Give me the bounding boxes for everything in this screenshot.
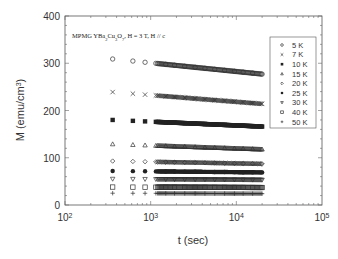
x-tick-label: 103 xyxy=(143,212,158,224)
legend: 5 K7 K10 K15 K20 K25 K30 K40 K50 K xyxy=(270,37,316,128)
series-40k xyxy=(110,185,264,190)
legend-label: 10 K xyxy=(292,60,307,69)
series-20k xyxy=(110,159,264,166)
legend-label: 30 K xyxy=(292,98,307,107)
y-tick-label: 400 xyxy=(43,11,60,22)
legend-label: 25 K xyxy=(292,89,307,98)
legend-label: 7 K xyxy=(292,50,303,59)
x-tick-label: 105 xyxy=(314,212,329,224)
legend-label: 20 K xyxy=(292,79,307,88)
y-tick-label: 0 xyxy=(54,200,60,211)
legend-label: 40 K xyxy=(292,108,307,117)
series-25k xyxy=(110,169,264,175)
data-points xyxy=(110,57,264,196)
y-tick-label: 200 xyxy=(43,106,60,117)
series-50k xyxy=(110,191,264,196)
series-15k xyxy=(110,142,264,151)
y-tick-label: 300 xyxy=(43,58,60,69)
x-axis-title: t (sec) xyxy=(178,234,209,246)
y-tick-label: 100 xyxy=(43,153,60,164)
series-10k xyxy=(110,118,264,129)
magnetization-relaxation-chart: 0100200300400102103104105 MPMG YBa2Cu3O7… xyxy=(0,0,338,259)
annotation: MPMG YBa2Cu3O7, H = 3 T, H // c xyxy=(72,32,165,42)
series-30k xyxy=(110,177,264,182)
legend-label: 5 K xyxy=(292,41,303,50)
y-axis-title: M (emu/cm3) xyxy=(14,79,26,142)
series-5k xyxy=(110,57,264,77)
x-tick-label: 102 xyxy=(57,212,72,224)
legend-label: 50 K xyxy=(292,118,307,127)
series-7k xyxy=(110,90,264,106)
legend-label: 15 K xyxy=(292,70,307,79)
x-tick-label: 104 xyxy=(229,212,244,224)
